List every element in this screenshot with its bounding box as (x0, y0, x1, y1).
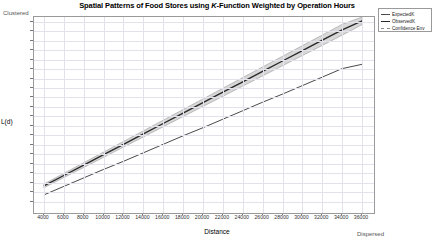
grid-line-vertical (84, 17, 85, 213)
y-axis-label: L(d) (1, 118, 13, 125)
grid-line-vertical (263, 17, 264, 213)
grid-line-vertical (243, 17, 244, 213)
legend-item-observedk[interactable]: ObservedK (381, 18, 429, 25)
legend-item-expectedk[interactable]: ExpectedK (381, 11, 429, 18)
chart-title-suffix: -Function Weighted by Operation Hours (217, 1, 355, 10)
grid-line-vertical (203, 17, 204, 213)
grid-line-vertical (143, 17, 144, 213)
chart-title: Spatial Patterns of Food Stores using K-… (0, 1, 434, 10)
chart-legend: ExpectedKObservedKConfidence Env (378, 8, 432, 32)
grid-line-vertical (183, 17, 184, 213)
clustered-note: Clustered (3, 10, 29, 16)
legend-swatch-icon (381, 14, 390, 15)
grid-line-vertical (123, 17, 124, 213)
legend-item-confidence-env[interactable]: Confidence Env (381, 25, 429, 32)
plot-area (33, 16, 375, 214)
chart-title-prefix: Spatial Patterns of Food Stores using (79, 1, 211, 10)
legend-item-label: ExpectedK (392, 12, 414, 17)
grid-line-vertical (64, 17, 65, 213)
grid-line-vertical (104, 17, 105, 213)
legend-swatch-icon (381, 21, 390, 22)
x-axis-label: Distance (0, 228, 434, 235)
legend-item-label: ObservedK (392, 19, 415, 24)
grid-line-vertical (163, 17, 164, 213)
grid-line-vertical (223, 17, 224, 213)
chart-root: Spatial Patterns of Food Stores using K-… (0, 0, 434, 243)
grid-line-vertical (342, 17, 343, 213)
grid-line-vertical (362, 17, 363, 213)
grid-line-vertical (322, 17, 323, 213)
legend-swatch-icon (381, 28, 390, 29)
grid-line-vertical (283, 17, 284, 213)
grid-line-vertical (302, 17, 303, 213)
legend-item-label: Confidence Env (392, 26, 424, 31)
grid-line-vertical (44, 17, 45, 213)
